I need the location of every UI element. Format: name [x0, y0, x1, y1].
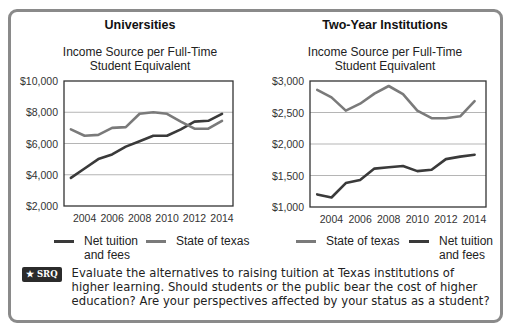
- y-tick-label: $2,500: [272, 107, 304, 119]
- left-subtitle-line1: Income Source per Full-Time: [20, 45, 260, 59]
- x-tick-label: 2004: [73, 212, 97, 224]
- y-tick-label: $6,000: [26, 138, 58, 150]
- legend-label: Net tuition and fees: [84, 234, 138, 262]
- right-line-chart: $1,000$1,500$2,000$2,500$3,0002004200620…: [255, 70, 509, 230]
- y-tick-label: $1,000: [272, 201, 304, 213]
- x-tick-label: 2010: [155, 212, 179, 224]
- x-tick-label: 2010: [406, 213, 430, 225]
- series-line: [317, 155, 474, 198]
- srq-question: ★ SRQ Evaluate the alternatives to raisi…: [22, 266, 492, 308]
- right-chart-subtitle: Income Source per Full-Time Student Equi…: [270, 45, 500, 73]
- x-tick-label: 2004: [320, 213, 344, 225]
- legend-label-line1: Net tuition: [439, 234, 493, 248]
- left-line-chart: $2,000$4,000$6,000$8,000$10,000200420062…: [0, 70, 255, 230]
- legend-label-line1: Net tuition: [84, 234, 138, 248]
- srq-badge: ★ SRQ: [22, 267, 62, 282]
- right-chart-title: Two-Year Institutions: [270, 18, 500, 32]
- net-tuition-swatch-icon: [54, 240, 74, 243]
- left-chart-subtitle: Income Source per Full-Time Student Equi…: [20, 45, 260, 73]
- y-tick-label: $3,000: [272, 75, 304, 87]
- left-chart-title: Universities: [20, 18, 260, 32]
- series-line: [71, 114, 222, 178]
- x-tick-label: 2014: [210, 212, 234, 224]
- x-tick-label: 2006: [100, 212, 124, 224]
- y-tick-label: $2,000: [272, 138, 304, 150]
- legend-label: Net tuition and fees: [439, 234, 493, 262]
- x-tick-label: 2012: [434, 213, 458, 225]
- x-tick-label: 2008: [128, 212, 152, 224]
- y-tick-label: $1,500: [272, 170, 304, 182]
- x-tick-label: 2006: [348, 213, 372, 225]
- legend-label: State of texas: [176, 234, 249, 248]
- y-tick-label: $8,000: [26, 106, 58, 118]
- series-line: [71, 112, 222, 135]
- right-subtitle-line1: Income Source per Full-Time: [270, 45, 500, 59]
- x-tick-label: 2014: [463, 213, 487, 225]
- srq-text: Evaluate the alternatives to raising tui…: [72, 266, 492, 308]
- series-line: [317, 86, 474, 118]
- legend-label-line2: and fees: [439, 248, 493, 262]
- x-tick-label: 2008: [377, 213, 401, 225]
- left-legend-net-tuition: Net tuition and fees: [54, 234, 138, 262]
- legend-label-line2: and fees: [84, 248, 138, 262]
- state-swatch-icon: [296, 240, 316, 243]
- left-legend-state: State of texas: [146, 234, 249, 248]
- y-tick-label: $2,000: [26, 200, 58, 212]
- right-legend-net-tuition: Net tuition and fees: [409, 234, 493, 262]
- x-tick-label: 2012: [183, 212, 207, 224]
- y-tick-label: $10,000: [20, 75, 58, 87]
- y-tick-label: $4,000: [26, 169, 58, 181]
- legend-label: State of texas: [326, 234, 399, 248]
- right-legend-state: State of texas: [296, 234, 399, 248]
- net-tuition-swatch-icon: [409, 240, 429, 243]
- state-swatch-icon: [146, 240, 166, 243]
